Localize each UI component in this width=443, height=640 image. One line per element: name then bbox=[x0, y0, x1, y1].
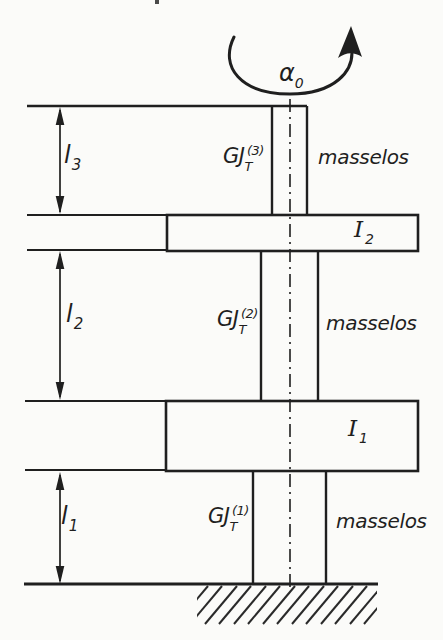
arrowhead-down-icon bbox=[56, 196, 65, 214]
rotation-arrowhead-icon bbox=[338, 26, 362, 58]
length-label-l1: l1 bbox=[61, 504, 77, 528]
arrowhead-down-icon bbox=[56, 382, 65, 400]
dimension-arrow-l2 bbox=[56, 251, 65, 400]
length-label-l3: l3 bbox=[64, 143, 80, 167]
length-label-l2: l2 bbox=[66, 302, 82, 326]
arrowhead-up-icon bbox=[56, 107, 65, 125]
rotation-angle-label: α0 bbox=[279, 61, 304, 85]
dimension-arrow-l3 bbox=[56, 107, 65, 214]
stiffness-label-shaft1: GJT(1) bbox=[208, 506, 249, 527]
arrowhead-up-icon bbox=[56, 472, 65, 490]
arrowhead-down-icon bbox=[56, 566, 65, 584]
stiffness-label-shaft3: GJT(3) bbox=[223, 146, 264, 167]
massless-note-shaft3: masselos bbox=[318, 147, 409, 167]
arrowhead-up-icon bbox=[56, 251, 65, 269]
scan-artifact bbox=[155, 0, 159, 4]
ground-hatching bbox=[176, 586, 396, 624]
massless-note-shaft1: masselos bbox=[336, 511, 427, 531]
disk-I1 bbox=[166, 401, 418, 471]
inertia-label-I2: I2 bbox=[354, 218, 372, 241]
stiffness-label-shaft2: GJT(2) bbox=[217, 309, 258, 330]
massless-note-shaft2: masselos bbox=[326, 313, 417, 333]
alpha-symbol: α bbox=[279, 59, 295, 87]
figure-torsion-shaft-diagram: α0 l3 l2 l1 GJT(3) GJT(2) GJT(1) masselo… bbox=[0, 0, 443, 640]
inertia-label-I1: I1 bbox=[348, 417, 366, 440]
alpha-subscript: 0 bbox=[295, 75, 304, 91]
disk-I2 bbox=[167, 215, 418, 251]
